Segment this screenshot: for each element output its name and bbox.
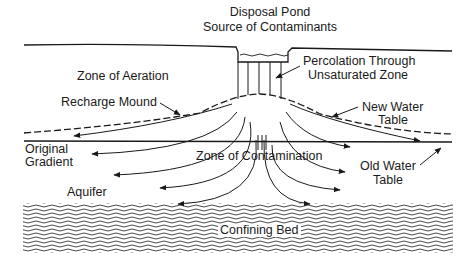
label-confining-bed: Confining Bed [218, 224, 301, 237]
label-zone-of-aeration: Zone of Aeration [77, 70, 169, 83]
label-percolation-line1: Percolation Through [303, 55, 415, 68]
label-zone-of-contamination: Zone of Contamination [196, 150, 322, 163]
pond-water-surface [240, 54, 288, 56]
title-source-of-contaminants: Source of Contaminants [185, 21, 355, 34]
title-disposal-pond: Disposal Pond [200, 6, 340, 19]
old-water-table-line [24, 141, 452, 142]
label-aquifer: Aquifer [67, 186, 107, 199]
label-old-water-table-line1: Old Water [360, 160, 416, 173]
label-percolation-line2: Unsaturated Zone [308, 69, 408, 82]
label-original-gradient-line2: Gradient [25, 156, 73, 169]
label-old-water-table-line2: Table [373, 174, 403, 187]
label-recharge-mound: Recharge Mound [61, 96, 157, 109]
label-new-water-table-line2: Table [378, 114, 408, 127]
central-flow-lines [258, 135, 266, 150]
